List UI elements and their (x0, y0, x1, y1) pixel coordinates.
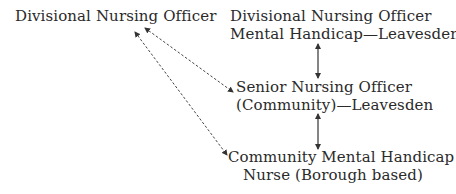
node-divisional-nursing-officer: Divisional Nursing Officer (15, 7, 217, 25)
node-label-line-1: Community Mental Handicap (228, 148, 438, 166)
node-label: Divisional Nursing Officer (15, 7, 217, 25)
node-community-mental-handicap-nurse: Community Mental Handicap Nurse (Borough… (228, 148, 438, 184)
node-label-line-1: Divisional Nursing Officer (230, 7, 416, 25)
node-divisional-nursing-officer-mental-handicap: Divisional Nursing Officer Mental Handic… (230, 7, 416, 43)
dashed-arrow-dno-to-cmhn (135, 32, 227, 155)
node-label-line-2: Nurse (Borough based) (228, 166, 438, 184)
node-senior-nursing-officer: Senior Nursing Officer (Community)—Leave… (236, 78, 404, 114)
node-label-line-1: Senior Nursing Officer (236, 78, 404, 96)
dashed-arrow-dno-to-sno (145, 28, 233, 92)
node-label-line-2: Mental Handicap—Leavesden (230, 25, 416, 43)
node-label-line-2: (Community)—Leavesden (236, 96, 404, 114)
